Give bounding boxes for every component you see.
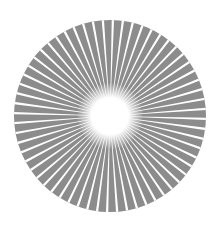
starburst-graphic [0, 0, 222, 247]
center-glow [76, 82, 143, 149]
